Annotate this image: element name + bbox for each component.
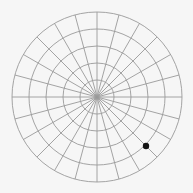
grid-spoke [37, 97, 97, 157]
grid-spoke [15, 75, 97, 97]
grid-spoke [75, 15, 97, 97]
grid-spoke [97, 55, 171, 98]
grid-spoke [97, 23, 140, 97]
polar-game-board[interactable] [0, 0, 193, 193]
grid-spoke [97, 75, 179, 97]
grid-spoke [55, 97, 98, 171]
grid-spoke [97, 37, 157, 97]
grid-spoke [75, 97, 97, 179]
grid-spoke [97, 15, 119, 97]
board-grid [12, 12, 182, 182]
black-stone[interactable] [143, 143, 149, 149]
grid-spoke [23, 55, 97, 98]
grid-spoke [15, 97, 97, 119]
grid-spoke [97, 97, 119, 179]
grid-spoke [55, 23, 98, 97]
board-pieces [143, 143, 149, 149]
grid-spoke [23, 97, 97, 140]
grid-spoke [97, 97, 179, 119]
grid-spoke [97, 97, 171, 140]
grid-spoke [97, 97, 140, 171]
grid-spoke [37, 37, 97, 97]
